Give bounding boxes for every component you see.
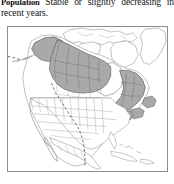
population-text-block: PopulationStable or slightly decreasing … bbox=[1, 0, 174, 17]
range-map-svg bbox=[8, 27, 167, 171]
population-paragraph: PopulationStable or slightly decreasing … bbox=[1, 0, 174, 17]
north-america-range-map bbox=[7, 26, 168, 172]
page-fragment: PopulationStable or slightly decreasing … bbox=[0, 0, 174, 184]
